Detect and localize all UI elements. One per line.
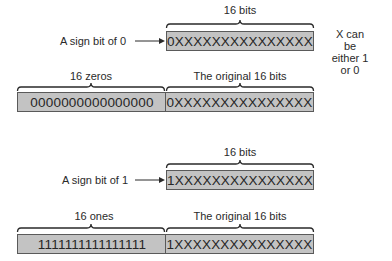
bit-box-16: 1XXXXXXXXXXXXXXX xyxy=(166,170,314,190)
brace-original-16-bits xyxy=(166,223,314,233)
brace-16-bits xyxy=(166,19,314,29)
label-original-16-bits: The original 16 bits xyxy=(194,210,287,222)
bit-box-16: 0XXXXXXXXXXXXXXX xyxy=(166,31,314,51)
arrow-right-icon xyxy=(135,37,165,45)
sign-bit-label: A sign bit of 1 xyxy=(62,174,128,186)
label-16-ones: 16 ones xyxy=(74,210,113,222)
ones-value: 1111111111111111 xyxy=(38,237,146,252)
original-value: 0XXXXXXXXXXXXXXX xyxy=(167,95,313,110)
brace-16-zeros xyxy=(17,82,165,92)
x-note: X can be either 1 or 0 xyxy=(350,28,392,76)
bit-value: 0XXXXXXXXXXXXXXX xyxy=(167,34,313,49)
arrow-right-icon xyxy=(135,176,165,184)
x-note-line1: X can be xyxy=(329,28,371,52)
x-note-line2: either 1 or 0 xyxy=(329,52,371,76)
label-original-16-bits: The original 16 bits xyxy=(194,70,287,82)
extended-box-left: 0000000000000000 xyxy=(17,92,166,112)
brace-label-16-bits: 16 bits xyxy=(224,4,256,16)
extended-box-right: 1XXXXXXXXXXXXXXX xyxy=(166,234,314,254)
brace-16-bits xyxy=(166,159,314,169)
bit-value: 1XXXXXXXXXXXXXXX xyxy=(167,173,313,188)
extended-box-left: 1111111111111111 xyxy=(17,234,166,254)
brace-16-ones xyxy=(17,223,165,233)
sign-bit-label: A sign bit of 0 xyxy=(60,35,126,47)
zeros-value: 0000000000000000 xyxy=(30,95,153,110)
label-16-zeros: 16 zeros xyxy=(70,70,112,82)
extended-box-right: 0XXXXXXXXXXXXXXX xyxy=(166,92,314,112)
original-value: 1XXXXXXXXXXXXXXX xyxy=(167,237,313,252)
brace-label-16-bits: 16 bits xyxy=(224,146,256,158)
brace-original-16-bits xyxy=(166,82,314,92)
